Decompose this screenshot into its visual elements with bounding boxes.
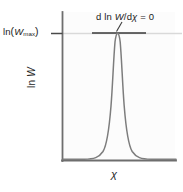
y-axis-title: ln W bbox=[27, 67, 37, 88]
y-max-close-paren: ) bbox=[35, 25, 39, 37]
figure-container: ln(Wmax) ln W χ d ln W/dχ = 0 bbox=[0, 0, 183, 192]
y-axis-title-prefix: ln bbox=[26, 80, 37, 88]
annotation-equals-zero: = 0 bbox=[140, 11, 154, 22]
y-max-subscript: max bbox=[23, 30, 35, 37]
annotation-ln: ln bbox=[104, 11, 112, 22]
y-max-prefix: ln bbox=[3, 26, 11, 37]
annotation-w: W bbox=[115, 11, 124, 22]
x-axis-title: χ bbox=[111, 169, 117, 180]
y-axis-max-value-label: ln(Wmax) bbox=[3, 26, 39, 37]
annotation-slash-d: /d bbox=[124, 11, 132, 22]
y-axis-title-variable: W bbox=[26, 67, 37, 77]
y-max-variable: W bbox=[14, 26, 23, 37]
derivative-annotation: d ln W/dχ = 0 bbox=[96, 12, 154, 22]
